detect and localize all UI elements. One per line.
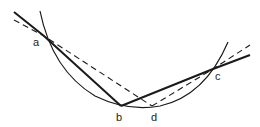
dashed-line-d-c (152, 45, 250, 106)
solid-line-a-b (14, 12, 121, 106)
point-label-c: c (215, 70, 221, 82)
point-label-d: d (151, 111, 157, 123)
point-label-b: b (116, 111, 122, 123)
solid-line-b-c (121, 55, 250, 106)
point-label-a: a (33, 36, 40, 48)
dashed-line-a-d (14, 20, 152, 106)
geometry-diagram: a b d c (0, 0, 260, 127)
